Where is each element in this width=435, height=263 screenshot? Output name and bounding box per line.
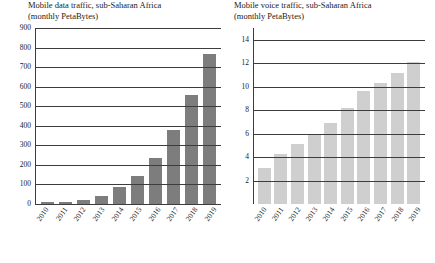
x-tick-label: 2014: [110, 206, 125, 223]
figure-container: Mobile data traffic, sub-Saharan Africa …: [0, 0, 435, 263]
y-tick-label: 2: [245, 177, 249, 185]
bar: [274, 154, 287, 204]
bar: [95, 196, 108, 204]
gridline: [35, 184, 221, 185]
plot-grid-right: [253, 28, 425, 204]
gridline: [253, 87, 425, 88]
chart-title-line2: (monthly PetaBytes): [10, 11, 225, 22]
x-tick-label: 2016: [147, 206, 162, 223]
gridline: [253, 134, 425, 135]
chart-title-line1: Mobile voice traffic, sub-Saharan Africa: [228, 0, 435, 11]
y-axis-labels-left: 0100200300400500600700800900: [10, 28, 34, 204]
x-tick-label: 2017: [373, 206, 388, 223]
x-tick-label: 2012: [287, 206, 302, 223]
y-tick-label: 6: [245, 130, 249, 138]
y-axis-labels-right: 2468101214: [228, 28, 252, 204]
x-tick-label: 2018: [184, 206, 199, 223]
x-tick-label: 2010: [36, 206, 51, 223]
y-tick-label: 500: [20, 102, 31, 110]
chart-panel-voice-traffic: Mobile voice traffic, sub-Saharan Africa…: [228, 0, 435, 246]
x-tick-label: 2012: [73, 206, 88, 223]
bar: [203, 54, 216, 204]
x-tick-label: 2011: [270, 206, 285, 223]
y-tick-label: 600: [20, 83, 31, 91]
gridline: [35, 48, 221, 49]
y-tick-label: 200: [20, 161, 31, 169]
y-tick-label: 10: [242, 83, 250, 91]
plot-area-data-traffic: 0100200300400500600700800900: [10, 28, 225, 204]
chart-title-line1: Mobile data traffic, sub-Saharan Africa: [10, 0, 225, 11]
x-tick-label: 2019: [408, 206, 423, 223]
y-tick-label: 900: [20, 24, 31, 32]
bar: [131, 176, 144, 204]
y-tick-label: 8: [245, 106, 249, 114]
gridline: [253, 181, 425, 182]
x-tick-label: 2014: [322, 206, 337, 223]
bar: [113, 187, 126, 204]
plot-area-voice-traffic: 2468101214: [228, 28, 435, 204]
bar: [374, 83, 387, 204]
gridline: [35, 28, 221, 29]
bar: [324, 123, 337, 204]
x-tick-label: 2013: [305, 206, 320, 223]
x-tick-label: 2015: [339, 206, 354, 223]
x-tick-label: 2018: [390, 206, 405, 223]
gridline: [35, 145, 221, 146]
plot-grid-left: [35, 28, 221, 204]
bar: [391, 73, 404, 204]
y-tick-label: 100: [20, 181, 31, 189]
x-tick-label: 2013: [91, 206, 106, 223]
gridline: [35, 126, 221, 127]
y-tick-label: 14: [242, 36, 250, 44]
bar: [258, 168, 271, 204]
gridline: [35, 165, 221, 166]
gridline: [253, 63, 425, 64]
gridline: [253, 110, 425, 111]
x-tick-label: 2015: [129, 206, 144, 223]
y-tick-label: 12: [242, 59, 250, 67]
x-axis-left: 2010201120122013201420152016201720182019: [10, 204, 225, 246]
x-tick-label: 2017: [166, 206, 181, 223]
bar: [185, 95, 198, 205]
x-tick-label: 2010: [253, 206, 268, 223]
bar-series-data-traffic: [35, 28, 221, 204]
y-tick-label: 700: [20, 63, 31, 71]
chart-panel-data-traffic: Mobile data traffic, sub-Saharan Africa …: [10, 0, 225, 246]
x-tick-label: 2011: [54, 206, 69, 223]
x-axis-right: 2010201120122013201420152016201720182019: [228, 204, 435, 246]
y-tick-label: 4: [245, 153, 249, 161]
gridline: [35, 67, 221, 68]
y-tick-label: 400: [20, 122, 31, 130]
bar: [308, 134, 321, 204]
gridline: [253, 157, 425, 158]
bar-series-voice-traffic: [253, 28, 425, 204]
bar: [291, 144, 304, 204]
chart-title-line2: (monthly PetaBytes): [228, 11, 435, 22]
bar: [341, 108, 354, 204]
bar: [357, 91, 370, 204]
bar: [167, 130, 180, 204]
gridline: [35, 106, 221, 107]
gridline: [35, 87, 221, 88]
y-tick-label: 800: [20, 44, 31, 52]
gridline: [253, 40, 425, 41]
y-tick-label: 300: [20, 142, 31, 150]
x-tick-label: 2019: [203, 206, 218, 223]
x-tick-label: 2016: [356, 206, 371, 223]
